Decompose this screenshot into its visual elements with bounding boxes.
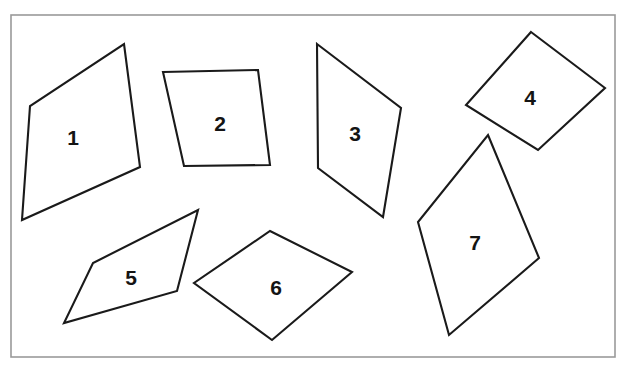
shape-label-1: 1 — [67, 126, 79, 149]
shape-label-6: 6 — [270, 276, 282, 299]
shape-group-6[interactable]: 6 — [194, 231, 352, 340]
shape-group-7[interactable]: 7 — [418, 135, 539, 335]
shape-label-3: 3 — [349, 122, 361, 145]
shape-group-5[interactable]: 5 — [64, 210, 198, 323]
shape-label-4: 4 — [524, 86, 536, 109]
shape-label-2: 2 — [214, 112, 226, 135]
quadrilaterals-figure: 1 2 3 4 5 6 7 — [0, 0, 623, 378]
shape-label-5: 5 — [125, 266, 137, 289]
quadrilateral-1[interactable] — [22, 44, 140, 220]
shape-group-2[interactable]: 2 — [163, 70, 270, 166]
shape-group-4[interactable]: 4 — [466, 32, 605, 150]
shape-group-1[interactable]: 1 — [22, 44, 140, 220]
figure-canvas: 1 2 3 4 5 6 7 — [0, 0, 623, 378]
shape-label-7: 7 — [469, 231, 481, 254]
shape-group-3[interactable]: 3 — [317, 44, 401, 217]
